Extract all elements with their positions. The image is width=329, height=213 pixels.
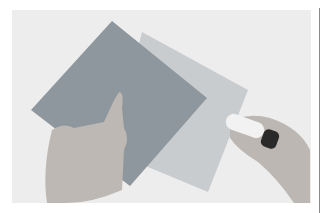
photo [12,10,311,203]
photo-illustration [12,10,311,203]
page-divider [319,8,320,213]
